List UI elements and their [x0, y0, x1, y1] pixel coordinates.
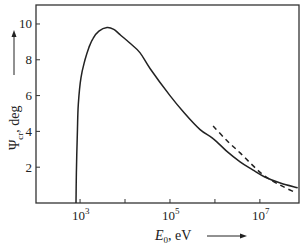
y-tick-label: 8: [26, 52, 33, 67]
x-tick-label-base: 10: [72, 208, 85, 223]
tick-labels: 103105107246810: [19, 16, 270, 223]
y-tick-label: 10: [19, 16, 32, 31]
x-tick-label-exponent: 5: [175, 206, 180, 216]
y-tick-label: 6: [26, 88, 33, 103]
x-tick-label-exponent: 3: [85, 206, 90, 216]
y-axis-arrow-head: [12, 30, 17, 37]
x-tick-label: 105: [162, 206, 180, 223]
y-axis-title: Ψcr, deg: [7, 105, 25, 150]
x-axis-arrow-head: [240, 234, 247, 239]
x-tick-label-exponent: 7: [265, 206, 270, 216]
x-tick-label-base: 10: [162, 208, 175, 223]
series-line-asymptotic: [213, 126, 295, 192]
y-tick-label: 4: [26, 124, 33, 139]
series-layer: [76, 28, 298, 203]
chart: 103105107246810 Ψcr, deg E0, eV: [0, 0, 302, 247]
x-tick-label-base: 10: [252, 208, 265, 223]
x-tick-label: 107: [252, 206, 270, 223]
y-tick-label: 2: [26, 160, 33, 175]
axis-ticks: [36, 24, 260, 203]
x-axis-title: E0, eV: [154, 228, 191, 245]
x-tick-label: 103: [72, 206, 90, 223]
